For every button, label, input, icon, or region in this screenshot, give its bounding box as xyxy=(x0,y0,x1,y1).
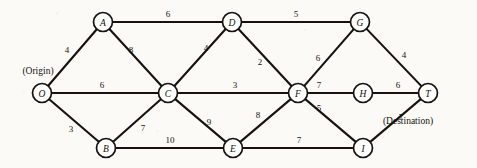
edge-weight-f-g: 6 xyxy=(316,53,321,63)
edge-c-e xyxy=(175,99,225,142)
edge-weight-o-b: 3 xyxy=(69,124,74,134)
node-c[interactable]: C xyxy=(159,84,178,103)
edge-o-a xyxy=(48,29,97,86)
edge-weight-e-f: 8 xyxy=(256,110,261,120)
node-t-label: T xyxy=(425,89,431,99)
edge-weight-d-g: 5 xyxy=(294,9,299,19)
network-diagram-canvas: OABCDEFGHIT 463687104395287675467 (Origi… xyxy=(0,0,477,168)
node-b-label: B xyxy=(103,144,109,154)
edge-weight-b-c: 7 xyxy=(141,123,146,133)
edge-weight-g-t: 4 xyxy=(402,50,407,60)
node-f[interactable]: F xyxy=(289,84,308,103)
edge-weight-a-d: 6 xyxy=(166,9,171,19)
edge-weight-e-i: 7 xyxy=(297,135,302,145)
edge-f-i xyxy=(305,99,355,142)
edge-d-f xyxy=(238,29,291,86)
edge-g-t xyxy=(367,29,422,86)
node-h-label: H xyxy=(359,89,368,99)
node-i[interactable]: I xyxy=(354,139,373,158)
node-a-label: A xyxy=(99,18,106,28)
node-d-label: D xyxy=(228,18,236,28)
edge-weight-h-t: 6 xyxy=(396,80,401,90)
node-t[interactable]: T xyxy=(419,84,438,103)
edge-a-c xyxy=(109,29,161,86)
edge-weight-f-h: 7 xyxy=(317,80,322,90)
edge-weight-o-c: 6 xyxy=(100,80,105,90)
node-o-label: O xyxy=(39,89,46,99)
node-e[interactable]: E xyxy=(224,139,243,158)
node-g-label: G xyxy=(357,18,364,28)
node-h[interactable]: H xyxy=(354,84,373,103)
edge-weight-a-c: 8 xyxy=(129,45,134,55)
edge-weight-o-a: 4 xyxy=(65,45,70,55)
node-f-label: F xyxy=(294,89,301,99)
edge-f-g xyxy=(304,29,354,86)
edge-weight-f-i: 5 xyxy=(317,103,322,113)
edge-weight-b-e: 10 xyxy=(166,135,176,145)
edge-c-d xyxy=(174,29,225,86)
edge-o-b xyxy=(49,99,99,142)
network-graph: OABCDEFGHIT 463687104395287675467 (Origi… xyxy=(0,0,477,168)
node-c-label: C xyxy=(165,89,172,99)
node-d[interactable]: D xyxy=(223,13,242,32)
node-g[interactable]: G xyxy=(351,13,370,32)
edge-weight-c-d: 4 xyxy=(204,43,209,53)
node-a[interactable]: A xyxy=(94,13,113,32)
edge-weight-c-f: 3 xyxy=(233,80,238,90)
origin-annotation: (Origin) xyxy=(22,66,53,77)
edge-weight-d-f: 2 xyxy=(258,57,263,67)
node-e-label: E xyxy=(229,144,236,154)
edge-b-c xyxy=(113,99,161,141)
node-b[interactable]: B xyxy=(97,139,116,158)
edge-weight-c-e: 9 xyxy=(207,117,212,127)
edge-e-f xyxy=(240,99,290,142)
node-o[interactable]: O xyxy=(33,84,52,103)
destination-annotation: (Destination) xyxy=(383,116,433,127)
